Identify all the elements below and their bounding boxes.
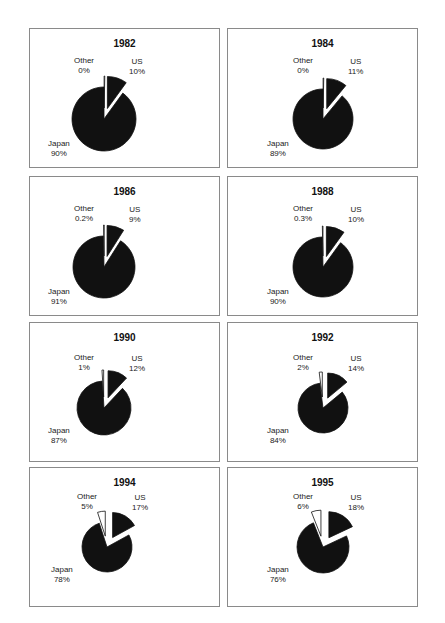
label-other: Other1%	[74, 353, 94, 373]
pie-panel-1986: 1986Other0.2%US9%Japan91%	[29, 176, 220, 316]
label-japan: Japan90%	[267, 287, 289, 307]
label-us: US10%	[348, 205, 364, 225]
pie-slice-other	[322, 226, 323, 256]
pie-slice-other	[323, 78, 324, 108]
label-japan: Japan91%	[48, 287, 70, 307]
label-us: US11%	[348, 57, 363, 77]
label-us: US17%	[132, 493, 148, 513]
chart-title: 1984	[228, 38, 417, 49]
label-other: Other0%	[293, 56, 313, 76]
label-other: Other5%	[77, 492, 97, 512]
pie-panel-1992: 1992Other2%US14%Japan84%	[227, 322, 418, 462]
pie-panel-1994: 1994Other5%US17%Japan78%	[29, 467, 220, 607]
label-japan: Japan90%	[48, 139, 70, 159]
pie-slice-other	[104, 225, 105, 256]
label-us: US9%	[129, 205, 141, 225]
pie-panel-1988: 1988Other0.3%US10%Japan90%	[227, 176, 418, 316]
label-us: US12%	[129, 354, 145, 374]
pie-slice-japan	[298, 383, 348, 433]
chart-title: 1995	[228, 477, 417, 488]
pie-chart	[228, 29, 419, 169]
pie-chart	[228, 468, 419, 608]
label-other: Other0.2%	[74, 204, 94, 224]
pie-panel-1990: 1990Other1%US12%Japan87%	[29, 322, 220, 462]
chart-title: 1992	[228, 332, 417, 343]
label-other: Other0%	[74, 56, 94, 76]
label-other: Other2%	[293, 353, 313, 373]
chart-title: 1988	[228, 186, 417, 197]
pie-slice-us	[329, 512, 353, 538]
label-us: US10%	[129, 57, 145, 77]
label-other: Other6%	[293, 492, 313, 512]
chart-title: 1986	[30, 186, 219, 197]
pie-chart	[228, 177, 419, 317]
pie-slice-us	[113, 513, 135, 538]
chart-title: 1994	[30, 477, 219, 488]
label-japan: Japan84%	[267, 426, 289, 446]
pie-panel-1984: 1984Other0%US11%Japan89%	[227, 28, 418, 168]
label-japan: Japan89%	[267, 139, 289, 159]
pie-chart	[30, 468, 221, 608]
pie-panel-1982: 1982Other0%US10%Japan90%	[29, 28, 220, 168]
label-japan: Japan78%	[51, 565, 73, 585]
label-us: US18%	[348, 493, 364, 513]
label-us: US14%	[348, 354, 364, 374]
label-japan: Japan87%	[48, 426, 70, 446]
chart-title: 1982	[30, 38, 219, 49]
pie-chart	[228, 323, 419, 463]
label-other: Other0.3%	[293, 204, 313, 224]
pie-panel-1995: 1995Other6%US18%Japan76%	[227, 467, 418, 607]
pie-slice-other	[104, 76, 105, 108]
label-japan: Japan76%	[267, 565, 289, 585]
chart-title: 1990	[30, 332, 219, 343]
